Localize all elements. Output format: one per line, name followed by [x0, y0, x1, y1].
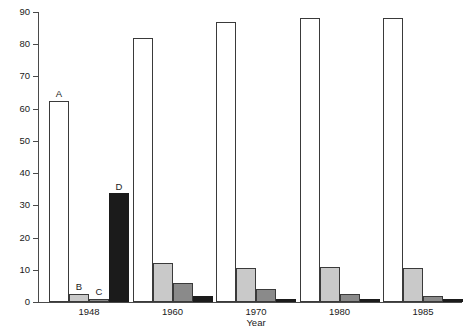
bar-1960-A — [133, 38, 153, 302]
y-tick-90 — [33, 12, 38, 13]
y-tick-label-60: 60 — [0, 104, 30, 114]
x-axis-title: Year — [206, 318, 306, 328]
bar-1960-D — [193, 296, 213, 302]
x-axis-line — [38, 302, 462, 303]
y-tick-30 — [33, 205, 38, 206]
bar-group-1980 — [300, 12, 380, 302]
bar-1960-C — [173, 283, 193, 302]
y-tick-label-50: 50 — [0, 136, 30, 146]
bar-1985-D — [443, 299, 463, 302]
y-tick-10 — [33, 270, 38, 271]
bar-1980-C — [340, 294, 360, 302]
x-tick-label-1985: 1985 — [373, 306, 473, 317]
series-label-A: A — [49, 89, 69, 99]
y-tick-20 — [33, 238, 38, 239]
bar-1970-B — [236, 268, 256, 302]
bar-1970-D — [276, 299, 296, 302]
bar-1970-A — [216, 22, 236, 302]
bar-1960-B — [153, 263, 173, 302]
bar-group-1970 — [216, 12, 296, 302]
bar-1985-B — [403, 268, 423, 302]
y-tick-70 — [33, 76, 38, 77]
bar-chart: 0102030405060708090 ABCD Year 1948196019… — [0, 0, 474, 330]
series-label-B: B — [69, 282, 89, 292]
y-tick-40 — [33, 173, 38, 174]
bar-1970-C — [256, 289, 276, 302]
bar-1948-A — [49, 101, 69, 302]
bar-1985-A — [383, 18, 403, 302]
bar-1985-C — [423, 296, 443, 302]
bar-1980-D — [360, 299, 380, 302]
bar-group-1985 — [383, 12, 463, 302]
bar-1980-A — [300, 18, 320, 302]
y-tick-label-70: 70 — [0, 71, 30, 81]
y-tick-label-0: 0 — [0, 297, 30, 307]
bar-1948-D — [109, 193, 129, 302]
y-tick-50 — [33, 141, 38, 142]
y-tick-label-20: 20 — [0, 233, 30, 243]
bar-group-1960 — [133, 12, 213, 302]
y-axis-line — [38, 12, 39, 303]
bar-1980-B — [320, 267, 340, 302]
y-tick-80 — [33, 44, 38, 45]
y-tick-label-30: 30 — [0, 200, 30, 210]
bar-group-1948: ABCD — [49, 12, 129, 302]
y-tick-label-90: 90 — [0, 7, 30, 17]
series-label-D: D — [109, 182, 129, 192]
y-tick-label-40: 40 — [0, 168, 30, 178]
bar-1948-C — [89, 299, 109, 302]
y-tick-60 — [33, 109, 38, 110]
series-label-C: C — [89, 287, 109, 297]
y-tick-0 — [33, 302, 38, 303]
y-tick-label-10: 10 — [0, 265, 30, 275]
y-tick-label-80: 80 — [0, 39, 30, 49]
bar-1948-B — [69, 294, 89, 302]
